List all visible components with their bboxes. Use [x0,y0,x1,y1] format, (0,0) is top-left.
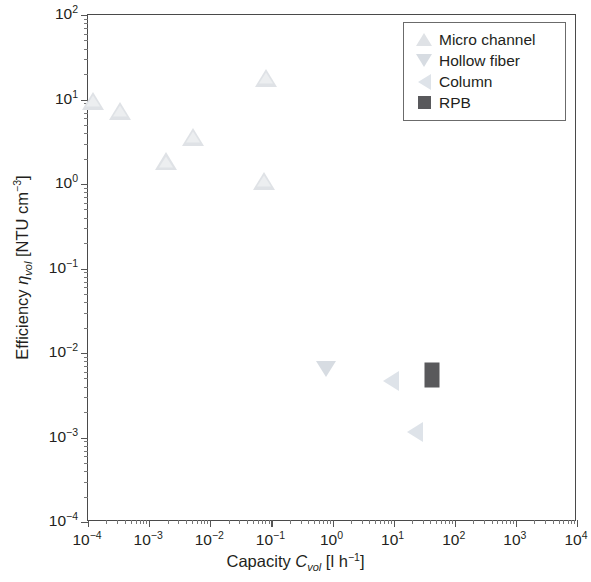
x-axis-minor-tick [571,520,572,524]
y-axis-title-units: [NTU cm [13,192,31,262]
data-point-micro-channel [155,152,177,170]
y-axis-minor-tick [84,387,88,388]
y-axis-minor-tick [84,328,88,329]
x-axis-minor-tick [391,520,392,524]
y-axis-minor-tick [84,209,88,210]
x-axis-minor-tick [253,520,254,524]
x-axis-minor-tick [553,520,554,524]
y-axis-minor-tick [84,313,88,314]
x-axis-minor-tick [229,520,230,524]
marker-highlight [159,156,173,167]
y-axis-tick-label: 102 [18,5,78,23]
legend-item-micro-channel[interactable]: Micro channel [412,29,557,50]
x-axis-tick-label: 10−3 [134,531,163,549]
legend-label: Micro channel [439,31,536,49]
y-axis-minor-tick [84,125,88,126]
x-axis-minor-tick [308,520,309,524]
x-axis-tick-label: 102 [442,531,465,549]
x-axis-minor-tick [430,520,431,524]
y-axis-minor-tick [84,446,88,447]
y-axis-minor-tick [84,471,88,472]
y-axis-major-tick [81,269,88,270]
marker-highlight [257,175,271,186]
x-axis-minor-tick [178,520,179,524]
x-axis-minor-tick [375,520,376,524]
x-axis-minor-tick [388,520,389,524]
legend-item-hollow-fiber[interactable]: Hollow fiber [412,50,557,71]
y-axis-minor-tick [84,74,88,75]
triangle-up-icon [155,152,177,170]
legend-label: Hollow fiber [439,52,520,70]
x-axis-major-tick [455,520,456,527]
legend-item-column[interactable]: Column [412,71,557,92]
x-axis-minor-tick [449,520,450,524]
x-axis-minor-tick [106,520,107,524]
y-axis-minor-tick [84,23,88,24]
legend-item-rpb[interactable]: RPB [412,92,557,113]
x-axis-major-tick [333,520,334,527]
x-axis-minor-tick [258,520,259,524]
x-axis-minor-tick [125,520,126,524]
x-axis-minor-tick [513,520,514,524]
y-axis-minor-tick [84,228,88,229]
x-axis-minor-tick [484,520,485,524]
x-axis-title-subscript: vol [307,561,321,573]
x-axis-minor-tick [412,520,413,524]
y-axis-tick-label: 10−4 [18,512,78,530]
x-axis-minor-tick [247,520,248,524]
y-axis-minor-tick [84,118,88,119]
legend-symbol [412,74,436,90]
triangle-left-icon [407,422,423,442]
triangle-up-icon [253,172,275,190]
x-axis-minor-tick [265,520,266,524]
legend-label: Column [439,73,492,91]
x-axis-minor-tick [327,520,328,524]
x-axis-minor-tick [506,520,507,524]
x-axis-minor-tick [492,520,493,524]
x-axis-minor-tick [445,520,446,524]
x-axis-minor-tick [380,520,381,524]
x-axis-title-symbol: C [295,552,307,570]
x-axis-major-tick [210,520,211,527]
x-axis-tick-label: 104 [564,531,587,549]
data-point-micro-channel [109,102,131,120]
x-axis-minor-tick [497,520,498,524]
x-axis-tick-label: 10−1 [256,531,285,549]
x-axis-minor-tick [117,520,118,524]
y-axis-tick-label: 100 [18,174,78,192]
y-axis-minor-tick [84,40,88,41]
x-axis-minor-tick [563,520,564,524]
y-axis-minor-tick [84,28,88,29]
x-axis-major-tick [394,520,395,527]
x-axis-tick-label: 101 [381,531,404,549]
scatter-plot-figure: Efficiency ηvol [NTU cm−3] Capacity Cvol… [0,0,591,582]
x-axis-tick-label: 10−2 [195,531,224,549]
x-axis-minor-tick [197,520,198,524]
y-axis-minor-tick [84,49,88,50]
y-axis-major-tick [81,522,88,523]
marker-highlight [259,73,273,84]
y-axis-minor-tick [84,378,88,379]
x-axis-minor-tick [146,520,147,524]
y-axis-major-tick [81,438,88,439]
x-axis-minor-tick [143,520,144,524]
x-axis-minor-tick [136,520,137,524]
y-axis-tick-label: 10−3 [18,428,78,446]
y-axis-minor-tick [84,113,88,114]
x-axis-title-prefix: Capacity [227,552,296,570]
data-point-hollow-fiber [316,361,336,377]
x-axis-minor-tick [423,520,424,524]
y-axis-major-tick [81,353,88,354]
y-axis-minor-tick [84,144,88,145]
legend-symbol [412,54,436,67]
triangle-up-icon [255,69,277,87]
y-axis-minor-tick [84,133,88,134]
triangle-up-icon [416,33,432,46]
data-point-column [407,422,423,442]
y-axis-minor-tick [84,287,88,288]
y-axis-minor-tick [84,412,88,413]
x-axis-major-tick [271,520,272,527]
y-axis-minor-tick [84,451,88,452]
x-axis-minor-tick [330,520,331,524]
y-axis-minor-tick [84,361,88,362]
